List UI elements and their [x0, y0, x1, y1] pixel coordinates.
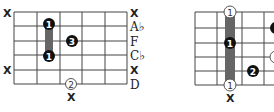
right-open-circle-partial	[270, 51, 274, 63]
left-finger-1-top: 1	[43, 18, 55, 30]
left-mute-lower-right: X	[130, 65, 138, 77]
left-finger-1-bottom: 1	[43, 50, 55, 62]
right-finger-1-filled: 1	[224, 37, 236, 49]
svg-text:1: 1	[227, 81, 233, 91]
svg-text:1: 1	[227, 39, 233, 49]
left-mute-top-right: X	[130, 8, 138, 20]
left-label-a-flat: A♭	[130, 21, 144, 33]
right-finger-4-partial	[270, 22, 274, 34]
svg-text:1: 1	[46, 20, 52, 30]
left-label-d: D	[130, 79, 140, 91]
left-mute-lower-left: X	[3, 65, 11, 77]
svg-text:1: 1	[227, 8, 233, 18]
left-fretboard-grid	[14, 12, 127, 84]
right-finger-1-open-bottom: 1	[224, 79, 236, 91]
left-finger-3: 3	[66, 35, 78, 47]
left-finger-2-open: 2	[66, 79, 77, 91]
right-finger-1-open-top: 1	[224, 6, 236, 18]
left-bottom-mute: X	[67, 92, 75, 104]
left-mute-top-left: X	[3, 8, 11, 20]
right-bottom-mute: X	[226, 93, 234, 105]
left-label-c-flat: C♭	[130, 50, 145, 62]
svg-text:3: 3	[69, 37, 75, 47]
svg-text:1: 1	[46, 52, 52, 62]
svg-text:2: 2	[68, 80, 74, 90]
left-label-f: F	[130, 36, 138, 48]
svg-text:2: 2	[250, 67, 256, 77]
right-finger-2: 2	[247, 65, 259, 77]
